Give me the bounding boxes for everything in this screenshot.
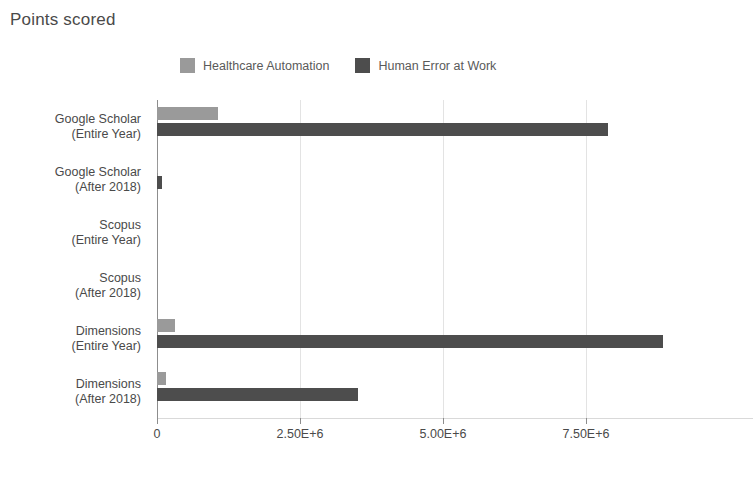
x-tick-label: 5.00E+6	[420, 427, 467, 441]
plot-area	[157, 100, 753, 418]
bar[interactable]	[157, 335, 663, 348]
x-tick-mark	[586, 418, 587, 424]
y-axis-label-line: Google Scholar	[55, 165, 141, 180]
bar[interactable]	[157, 176, 162, 189]
y-axis-label: Dimensions(Entire Year)	[72, 324, 141, 354]
y-axis-label-line: Dimensions	[75, 377, 141, 392]
bar[interactable]	[157, 107, 218, 120]
bar[interactable]	[157, 372, 166, 385]
chart-legend: Healthcare Automation Human Error at Wor…	[180, 58, 496, 73]
y-axis-label: Dimensions(After 2018)	[75, 377, 141, 407]
bar-group	[157, 365, 753, 418]
y-axis-labels: Google Scholar(Entire Year)Google Schola…	[0, 100, 150, 418]
y-axis-label-line: Scopus	[75, 271, 141, 286]
x-tick-mark	[443, 418, 444, 424]
x-tick-label: 2.50E+6	[277, 427, 324, 441]
x-axis-line	[157, 418, 753, 419]
bar-group	[157, 206, 753, 259]
bar-group	[157, 259, 753, 312]
y-axis-label-line: (After 2018)	[75, 392, 141, 407]
x-tick-mark	[157, 418, 158, 424]
bar[interactable]	[157, 319, 175, 332]
legend-label-healthcare-automation: Healthcare Automation	[203, 59, 329, 73]
y-axis-label-line: Scopus	[72, 218, 141, 233]
bar-chart: Points scored Healthcare Automation Huma…	[0, 0, 753, 482]
y-axis-label-line: (Entire Year)	[55, 127, 141, 142]
y-axis-label: Google Scholar(After 2018)	[55, 165, 141, 195]
y-axis-label: Scopus(Entire Year)	[72, 218, 141, 248]
bar-group	[157, 312, 753, 365]
chart-title: Points scored	[10, 10, 116, 30]
x-tick-label: 7.50E+6	[563, 427, 610, 441]
legend-swatch-human-error-at-work	[355, 58, 370, 73]
y-axis-label: Scopus(After 2018)	[75, 271, 141, 301]
bar-group	[157, 153, 753, 206]
y-axis-label-line: (Entire Year)	[72, 233, 141, 248]
y-axis-label: Google Scholar(Entire Year)	[55, 112, 141, 142]
legend-label-human-error-at-work: Human Error at Work	[378, 59, 496, 73]
x-tick-label: 0	[154, 427, 161, 441]
y-axis-label-line: Dimensions	[72, 324, 141, 339]
x-axis: 02.50E+65.00E+67.50E+6	[157, 418, 753, 458]
bar[interactable]	[157, 123, 608, 136]
legend-item-human-error-at-work[interactable]: Human Error at Work	[355, 58, 496, 73]
legend-item-healthcare-automation[interactable]: Healthcare Automation	[180, 58, 329, 73]
bar-group	[157, 100, 753, 153]
bar[interactable]	[157, 160, 158, 173]
y-axis-label-line: (Entire Year)	[72, 339, 141, 354]
y-axis-label-line: (After 2018)	[75, 286, 141, 301]
bar[interactable]	[157, 388, 358, 401]
x-tick-mark	[300, 418, 301, 424]
legend-swatch-healthcare-automation	[180, 58, 195, 73]
y-axis-label-line: (After 2018)	[55, 180, 141, 195]
y-axis-label-line: Google Scholar	[55, 112, 141, 127]
